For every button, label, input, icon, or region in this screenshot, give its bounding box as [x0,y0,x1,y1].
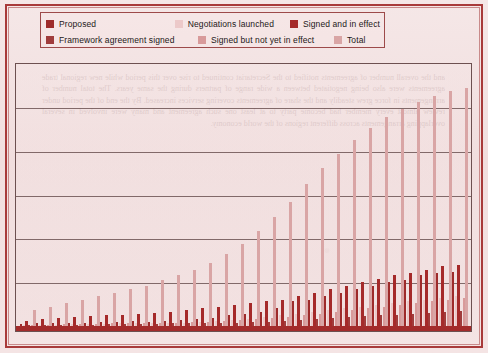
legend-label-framework-agreement-signed: Framework agreement signed [59,35,175,45]
legend-swatch-negotiations-launched [175,20,183,28]
bar-group [308,64,324,326]
legend-item-framework-agreement-signed[interactable]: Framework agreement signed [46,35,198,45]
bar-group [452,64,468,326]
chart-bar-groups [16,64,471,326]
bar-group [164,64,180,326]
bar-group [420,64,436,326]
bar-group [340,64,356,326]
bar-group [436,64,452,326]
bar-group [100,64,116,326]
legend-swatch-total [334,36,342,44]
bar-group [324,64,340,326]
bar-group [52,64,68,326]
bar-total [465,88,467,326]
legend-label-total: Total [347,35,365,45]
legend-label-signed-and-in-effect: Signed and in effect [303,19,380,29]
bar-group [180,64,196,326]
bar-group [228,64,244,326]
legend-item-signed-and-in-effect[interactable]: Signed and in effect [290,19,380,29]
bar-group [132,64,148,326]
bar-group [388,64,404,326]
legend-label-proposed: Proposed [59,19,96,29]
bar-group [260,64,276,326]
legend-item-proposed[interactable]: Proposed [46,19,175,29]
legend-swatch-signed-and-in-effect [290,20,298,28]
legend-item-total[interactable]: Total [334,35,365,45]
chart-plot-area: and the overall number of agreements not… [15,63,472,332]
bar-group [196,64,212,326]
chart-page: Proposed Negotiations launched Signed an… [0,0,488,353]
bar-group [84,64,100,326]
bar-group [20,64,36,326]
bar-group [404,64,420,326]
legend-row-2: Framework agreement signed Signed but no… [46,32,380,48]
bar-group [212,64,228,326]
legend-swatch-signed-but-not-yet-in-effect [198,36,206,44]
chart-legend: Proposed Negotiations launched Signed an… [40,12,385,48]
bar-group [148,64,164,326]
bar-group [292,64,308,326]
legend-swatch-proposed [46,20,54,28]
legend-swatch-framework-agreement-signed [46,36,54,44]
legend-item-negotiations-launched[interactable]: Negotiations launched [175,19,290,29]
legend-label-signed-but-not-yet-in-effect: Signed but not yet in effect [211,35,314,45]
bar-group [68,64,84,326]
bar-group [116,64,132,326]
legend-row-1: Proposed Negotiations launched Signed an… [46,16,380,32]
bar-group [36,64,52,326]
bar-group [372,64,388,326]
bar-group [356,64,372,326]
bar-group [276,64,292,326]
bar-group [244,64,260,326]
chart-x-axis-band [16,326,471,331]
legend-item-signed-but-not-yet-in-effect[interactable]: Signed but not yet in effect [198,35,334,45]
legend-label-negotiations-launched: Negotiations launched [188,19,274,29]
